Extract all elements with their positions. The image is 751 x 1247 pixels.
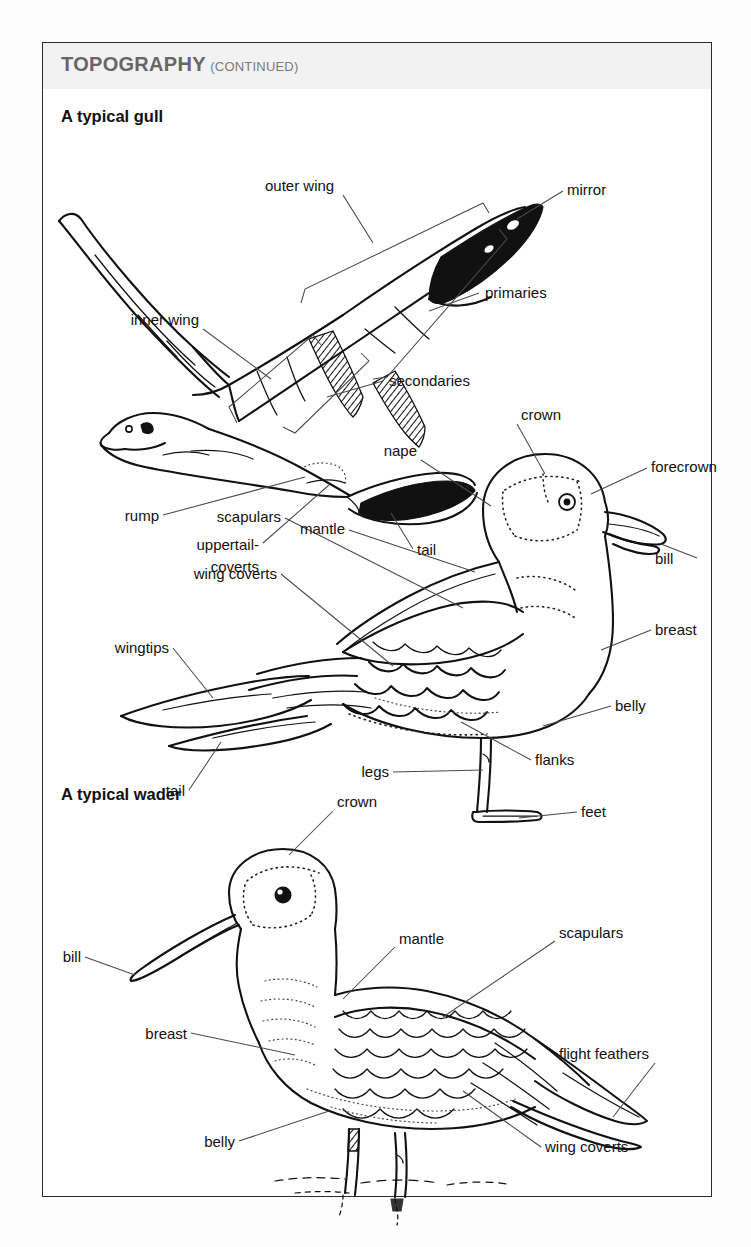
page-title: TOPOGRAPHY (CONTINUED) (61, 53, 298, 76)
label-crown-wader: crown (337, 793, 377, 810)
label-bill-wader: bill (63, 948, 81, 965)
label-wingtips: wingtips (114, 639, 169, 656)
header-title-main: TOPOGRAPHY (61, 53, 206, 75)
label-scapulars-wader: scapulars (559, 924, 623, 941)
wader-feather-scales (333, 1011, 527, 1118)
label-belly-gull: belly (615, 697, 646, 714)
figure-standing-gull: crown nape forecrown mantle bill scapula… (43, 398, 713, 798)
standing-gull-artwork (121, 454, 666, 822)
diagram-panel: TOPOGRAPHY (CONTINUED) A typical gull A … (42, 42, 712, 1197)
label-bill-gull: bill (655, 550, 673, 567)
standing-gull-labels: crown nape forecrown mantle bill scapula… (114, 406, 717, 820)
label-flight-feathers: flight feathers (559, 1045, 649, 1062)
header-title-continued: (CONTINUED) (210, 59, 298, 74)
label-secondaries: secondaries (389, 372, 470, 389)
label-breast-gull: breast (655, 621, 698, 638)
figure-wader: crown mantle scapulars bill flight feath… (43, 811, 713, 1201)
label-nape: nape (384, 442, 417, 459)
label-wing-coverts-gull: wing coverts (193, 565, 277, 582)
label-belly-wader: belly (204, 1133, 235, 1150)
label-inner-wing: inner wing (131, 311, 199, 328)
label-outer-wing: outer wing (265, 177, 334, 194)
label-primaries: primaries (485, 284, 547, 301)
label-flanks: flanks (535, 751, 574, 768)
label-mirror: mirror (567, 181, 606, 198)
wader-leaders (85, 811, 655, 1147)
label-legs: legs (361, 763, 389, 780)
label-tail-standing: tail (166, 782, 185, 799)
section-title-gull: A typical gull (61, 107, 163, 126)
label-forecrown: forecrown (651, 458, 717, 475)
label-scapulars-gull: scapulars (217, 508, 281, 525)
page-canvas: TOPOGRAPHY (CONTINUED) A typical gull A … (0, 0, 751, 1247)
standing-gull-leaders (173, 424, 697, 818)
label-wing-coverts-wader: wing coverts (544, 1138, 628, 1155)
label-crown-gull: crown (521, 406, 561, 423)
label-breast-wader: breast (145, 1025, 188, 1042)
label-mantle-gull: mantle (300, 520, 345, 537)
label-mantle-wader: mantle (399, 930, 444, 947)
